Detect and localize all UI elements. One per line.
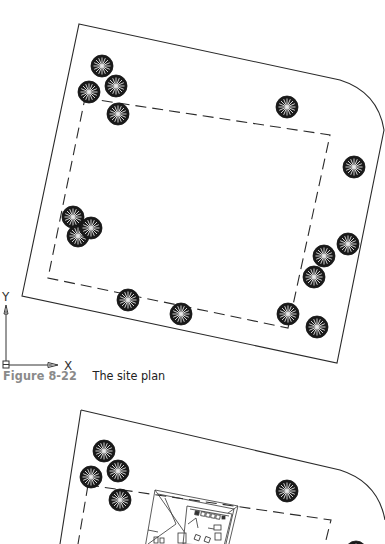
figure-1-site-plan: Y X bbox=[1, 24, 384, 373]
figure-2-site-plan-with-house bbox=[60, 410, 385, 544]
tree-icon bbox=[343, 156, 365, 178]
figure-title: The site plan bbox=[93, 368, 166, 383]
tree-icon bbox=[337, 233, 359, 255]
tree-icon bbox=[80, 217, 102, 239]
tree-icon bbox=[276, 96, 298, 118]
tree-icon bbox=[107, 460, 129, 482]
tree-icon bbox=[313, 245, 335, 267]
tree-icon bbox=[276, 480, 298, 502]
site-plan-drawing: Y X bbox=[0, 0, 385, 544]
tree-icon bbox=[107, 103, 129, 125]
ucs-axis-icon bbox=[3, 305, 58, 368]
tree-icon bbox=[109, 489, 131, 511]
property-boundary-line bbox=[22, 24, 384, 363]
house-plan bbox=[145, 490, 238, 544]
figure-caption: Figure 8-22 The site plan bbox=[3, 368, 165, 384]
tree-icon bbox=[93, 440, 115, 462]
figure-number: Figure 8-22 bbox=[3, 368, 77, 383]
tree-icon bbox=[91, 55, 113, 77]
tree-icon bbox=[277, 303, 299, 325]
setback-dashed-line bbox=[48, 98, 330, 328]
tree-icon bbox=[306, 316, 328, 338]
tree-icon bbox=[170, 303, 192, 325]
y-axis-label: Y bbox=[1, 290, 10, 304]
tree-icon bbox=[303, 266, 325, 288]
property-boundary-left-2 bbox=[60, 410, 81, 544]
trees-group-figure-1 bbox=[62, 55, 365, 338]
tree-icon bbox=[78, 81, 100, 103]
tree-icon bbox=[80, 466, 102, 488]
tree-icon bbox=[105, 75, 127, 97]
tree-icon bbox=[117, 289, 139, 311]
